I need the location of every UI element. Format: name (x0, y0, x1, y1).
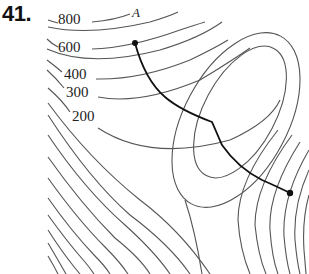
contour-label-200: 200 (72, 108, 95, 124)
point-a-marker (132, 40, 138, 46)
contour-ellipses (145, 12, 309, 229)
contour-label-800: 800 (58, 11, 81, 27)
contour-map: 800 600 400 300 200 A (0, 0, 309, 274)
contour-label-300: 300 (66, 84, 89, 100)
contour-lines-right (185, 130, 309, 274)
point-a-label: A (131, 5, 140, 20)
contour-label-600: 600 (58, 39, 81, 55)
point-end-marker (287, 190, 293, 196)
contour-lines-lower-left (48, 103, 210, 274)
contour-label-400: 400 (64, 66, 87, 82)
